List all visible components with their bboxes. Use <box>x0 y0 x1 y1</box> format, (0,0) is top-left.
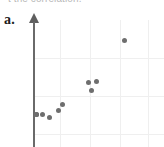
scatter-plot-figure: t the correlation. a. <box>0 0 164 147</box>
data-point <box>94 79 99 84</box>
data-point <box>86 80 91 85</box>
data-point <box>56 108 61 113</box>
plot-area <box>0 0 164 147</box>
grid-line-vertical <box>60 20 61 147</box>
grid-line-horizontal <box>33 96 164 97</box>
y-axis-line <box>33 22 35 147</box>
data-point <box>40 112 45 117</box>
data-point <box>122 38 127 43</box>
data-point <box>47 115 52 120</box>
grid-line-vertical <box>120 20 121 147</box>
data-point <box>34 112 39 117</box>
grid-line-horizontal <box>33 134 164 135</box>
data-point <box>60 102 65 107</box>
grid-line-horizontal <box>33 58 164 59</box>
data-point <box>89 88 94 93</box>
grid-line-vertical <box>148 20 149 147</box>
